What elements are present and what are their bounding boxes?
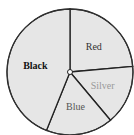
center-hub [68, 70, 73, 75]
pie-label-silver: Silver [91, 80, 116, 91]
pie-label-black: Black [23, 60, 48, 71]
pie-chart: RedSilverBlueBlack [0, 0, 134, 135]
pie-label-blue: Blue [66, 101, 85, 112]
pie-label-red: Red [86, 41, 102, 52]
